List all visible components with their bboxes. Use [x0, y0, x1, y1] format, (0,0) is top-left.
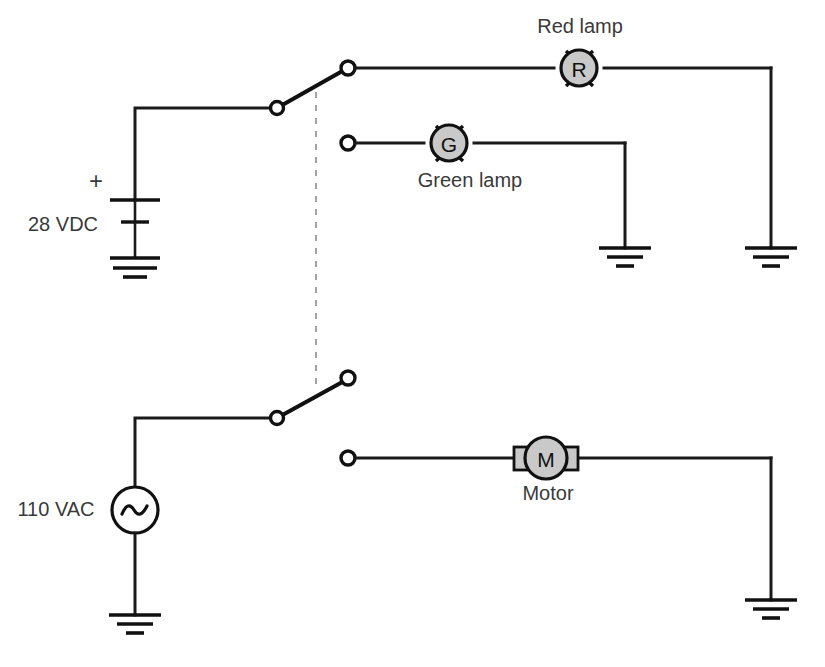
upper-switch-contact-red[interactable] — [341, 61, 355, 75]
ac-source-group: 110 VAC — [17, 418, 272, 633]
lower-switch-pivot-terminal[interactable] — [271, 412, 284, 425]
motor-contact-terminal[interactable] — [341, 451, 355, 465]
red-lamp-symbol[interactable]: R — [561, 50, 597, 86]
battery-polarity-plus: + — [89, 167, 103, 194]
schematic-drawing: + 28 VDC R Red lamp — [0, 0, 825, 667]
green-lamp-contact-terminal[interactable] — [341, 136, 355, 150]
motor-branch: M Motor — [341, 437, 797, 618]
green-lamp-letter: G — [441, 133, 457, 156]
lower-switch-open-terminal[interactable] — [341, 371, 355, 385]
ac-source-label: 110 VAC — [17, 498, 94, 520]
dc-source-label: 28 VDC — [28, 213, 98, 235]
green-lamp-branch: G Green lamp — [341, 125, 651, 266]
lower-switch-blade[interactable] — [277, 380, 346, 418]
ac-source-top-wire — [135, 418, 272, 487]
motor-letter: M — [537, 448, 555, 471]
red-lamp-label: Red lamp — [537, 15, 623, 37]
dc-selector-switch[interactable] — [271, 61, 356, 115]
motor-symbol[interactable]: M — [514, 437, 578, 479]
green-lamp-label: Green lamp — [418, 169, 523, 191]
circuit-diagram-canvas: + 28 VDC R Red lamp — [0, 0, 825, 667]
red-lamp-letter: R — [571, 58, 586, 81]
ac-selector-switch[interactable] — [271, 371, 356, 425]
dc-source-group: + 28 VDC — [28, 108, 272, 277]
green-lamp-symbol[interactable]: G — [431, 125, 467, 161]
upper-switch-pivot-terminal[interactable] — [271, 102, 284, 115]
dc-source-wire — [135, 108, 272, 200]
red-lamp-branch: R Red lamp — [355, 15, 797, 266]
motor-label: Motor — [522, 482, 573, 504]
upper-switch-blade[interactable] — [277, 69, 346, 108]
